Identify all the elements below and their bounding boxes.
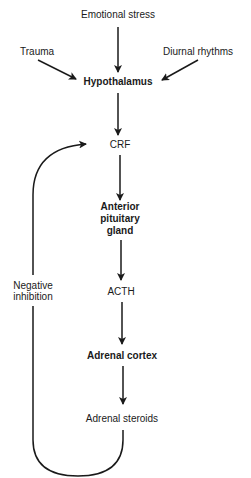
node-trauma: Trauma <box>20 46 54 58</box>
feedback-loop-lower <box>33 306 123 476</box>
node-anterior-pituitary-line1: Anterior <box>80 201 160 213</box>
node-acth: ACTH <box>96 286 146 298</box>
node-diurnal-rhythms: Diurnal rhythms <box>163 46 233 58</box>
node-hypothalamus: Hypothalamus <box>70 76 166 88</box>
feedback-loop-upper <box>33 144 86 275</box>
arrow-diurnal-to-hypothalamus <box>162 60 198 80</box>
diagram-arrows <box>0 0 251 478</box>
node-adrenal-cortex: Adrenal cortex <box>72 350 172 362</box>
feedback-label-line2: inhibition <box>5 291 61 303</box>
node-adrenal-steroids: Adrenal steroids <box>72 413 172 425</box>
node-anterior-pituitary-line2: pituitary <box>80 213 160 225</box>
node-emotional-stress: Emotional stress <box>70 9 166 21</box>
node-crf: CRF <box>100 139 140 151</box>
node-anterior-pituitary-line3: gland <box>80 225 160 237</box>
